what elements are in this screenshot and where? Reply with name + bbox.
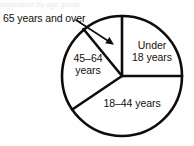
pie-chart-figure: population by age group Under 18 years 1… [0,0,194,146]
slice-label-45-64-years-line1: 45–64 [74,52,103,64]
slice-label-under-18-years-line1: Under [138,39,166,51]
slice-label-under-18-years-line2: 18 years [132,51,172,63]
slice-label-45-64-years: 45–64 years [66,53,110,76]
slice-label-65-years-and-over: 65 years and over [3,13,79,25]
slice-label-18-44-years: 18–44 years [96,98,168,110]
slice-label-45-64-years-line2: years [75,64,100,76]
slice-label-18-44-years-line1: 18–44 years [103,97,160,109]
slice-label-under-18-years: Under 18 years [126,40,178,63]
slice-label-65-years-and-over-text: 65 years and over [3,12,85,24]
